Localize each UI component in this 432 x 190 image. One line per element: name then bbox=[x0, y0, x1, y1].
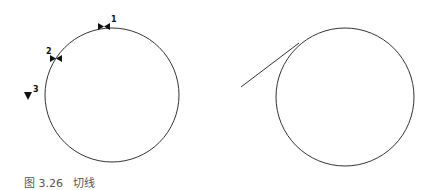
left-circle bbox=[45, 28, 179, 162]
figure-canvas: 1 2 3 bbox=[0, 0, 432, 190]
marker-label-1: 1 bbox=[111, 15, 117, 24]
right-panel bbox=[241, 28, 414, 166]
tangent-line bbox=[241, 43, 299, 87]
triangle-marker-3 bbox=[24, 92, 32, 100]
right-circle bbox=[276, 28, 414, 166]
marker-label-2: 2 bbox=[46, 47, 52, 56]
figure-caption: 图 3.26 切线 bbox=[24, 174, 95, 190]
marker-label-3: 3 bbox=[33, 85, 39, 94]
bowtie-marker-2 bbox=[50, 55, 62, 62]
left-panel: 1 2 3 bbox=[24, 15, 179, 162]
